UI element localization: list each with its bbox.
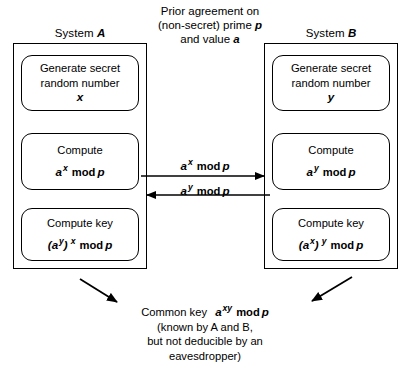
step-compute-key-b: Compute key (ax)ymodp (272, 208, 390, 261)
exchange-b-to-a-mod: mod (197, 185, 221, 197)
exchange-label-a-to-b: axmodp (155, 157, 255, 172)
exchange-b-to-a-exponent: y (188, 182, 193, 192)
system-b-title: System B (264, 27, 398, 41)
compute-key-a-expression: (ay)xmodp (48, 236, 112, 253)
arrow-b-to-common-key (312, 277, 352, 301)
common-key-label: Common key (141, 306, 207, 318)
compute-a-mod: mod (72, 166, 96, 178)
compute-key-b-inner-open: (a (299, 238, 309, 251)
prime-variable: p (255, 19, 262, 31)
step-compute-key-a: Compute key (ay)xmodp (21, 208, 139, 261)
exchange-a-to-b-exponent: x (188, 157, 193, 167)
compute-b-mod: mod (323, 166, 347, 178)
generate-secret-b-line2: random number (292, 76, 371, 90)
compute-key-b-mod: mod (331, 239, 355, 251)
compute-key-b-inner-close: ) (315, 238, 319, 251)
system-a-title: System A (13, 27, 147, 41)
compute-b-modulus: p (348, 165, 355, 178)
system-b-title-text: System (306, 27, 345, 39)
arrow-a-to-common-key (80, 279, 117, 302)
compute-b-line1: Compute (308, 143, 353, 157)
prior-agreement-line3-text: and value (180, 33, 230, 45)
common-key-base: a (215, 305, 221, 318)
compute-a-line1: Compute (57, 143, 102, 157)
prior-agreement-line2-text: (non-secret) prime (158, 19, 252, 31)
compute-a-base: a (56, 165, 62, 178)
exchange-b-to-a-modulus: p (222, 184, 229, 197)
exchange-a-to-b-modulus: p (222, 159, 229, 172)
step-compute-a: Compute axmodp (21, 133, 139, 190)
step-compute-b: Compute aymodp (272, 133, 390, 190)
compute-key-a-mod: mod (80, 239, 104, 251)
secret-x-variable: x (77, 90, 83, 103)
compute-key-b-modulus: p (356, 238, 363, 251)
base-value-variable: a (233, 33, 239, 45)
secret-y-variable: y (328, 90, 334, 103)
exchange-a-to-b-base: a (181, 159, 187, 172)
common-key-note-line3: eavesdropper) (105, 349, 305, 364)
common-key-mod: mod (236, 306, 260, 318)
compute-b-exponent: y (314, 163, 319, 173)
compute-a-exponent: x (63, 163, 68, 173)
compute-key-a-outer-exponent: x (71, 236, 76, 246)
system-a-title-text: System (55, 27, 94, 39)
system-b-letter: B (348, 27, 356, 39)
compute-key-a-inner-close: ) (64, 238, 68, 251)
compute-key-a-inner-open: (a (48, 238, 58, 251)
generate-secret-a-line1: Generate secret (40, 61, 120, 75)
prior-agreement-note: Prior agreement on (non-secret) prime p … (140, 4, 280, 46)
generate-secret-b-value: y (328, 90, 334, 105)
common-key-exponent: xy (223, 303, 233, 313)
compute-key-a-line1: Compute key (47, 216, 113, 230)
generate-secret-a-line2: random number (41, 76, 120, 90)
diffie-hellman-diagram: Prior agreement on (non-secret) prime p … (0, 0, 410, 368)
compute-key-b-line1: Compute key (298, 216, 364, 230)
compute-key-a-modulus: p (105, 238, 112, 251)
common-key-modulus: p (262, 305, 269, 318)
common-key-note-line2: but not deducible by an (105, 334, 305, 349)
common-key-note-line1: (known by A and B, (105, 320, 305, 335)
compute-key-b-outer-exponent: y (322, 236, 327, 246)
compute-b-expression: aymodp (307, 163, 356, 180)
compute-a-modulus: p (97, 165, 104, 178)
prior-agreement-line1: Prior agreement on (140, 4, 280, 18)
exchange-label-b-to-a: aymodp (155, 182, 255, 197)
common-key-line: Common key axymodp (105, 303, 305, 320)
step-generate-secret-a: Generate secret random number x (21, 55, 139, 111)
system-a-letter: A (97, 27, 105, 39)
prior-agreement-line2: (non-secret) prime p (140, 18, 280, 32)
step-generate-secret-b: Generate secret random number y (272, 55, 390, 111)
exchange-a-to-b-mod: mod (197, 160, 221, 172)
compute-a-expression: axmodp (56, 163, 105, 180)
compute-key-b-expression: (ax)ymodp (299, 236, 363, 253)
generate-secret-a-value: x (77, 90, 83, 105)
compute-b-base: a (307, 165, 313, 178)
prior-agreement-line3: and value a (140, 32, 280, 46)
common-key-result: Common key axymodp (known by A and B, bu… (105, 303, 305, 364)
generate-secret-b-line1: Generate secret (291, 61, 371, 75)
exchange-b-to-a-base: a (181, 184, 187, 197)
